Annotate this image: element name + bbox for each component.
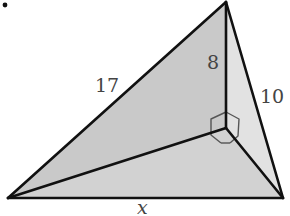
label-altitude: 8 [207,51,219,73]
label-base-edge: x [137,196,148,216]
label-right-edge: 10 [260,85,284,107]
corner-dot [3,3,8,8]
pyramid-diagram: 17 8 10 x [0,0,290,216]
label-slant-edge: 17 [95,74,119,96]
